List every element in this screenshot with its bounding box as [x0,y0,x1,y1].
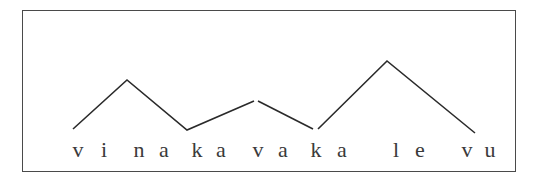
phrase-letter: e [415,137,425,162]
phrase-letter: k [311,137,322,162]
phrase-letter: i [101,137,107,162]
phrase-letter: v [253,137,264,162]
pitch-contour-diagram: vinakavakalevu [0,0,538,179]
phrase-letter: a [216,137,226,162]
phrase-letter: n [134,137,145,162]
phrase-letter: u [485,137,496,162]
contour-line-2 [318,61,475,133]
phrase-letter: l [393,137,399,162]
phrase-letter: a [337,137,347,162]
phrase-letter: a [159,137,169,162]
phrase-letter: a [278,137,288,162]
phrase-letter: v [462,137,473,162]
phrase-letter: v [73,137,84,162]
contour-line-1 [258,101,313,129]
contour-line-0 [73,80,254,130]
phrase-letter: k [192,137,203,162]
